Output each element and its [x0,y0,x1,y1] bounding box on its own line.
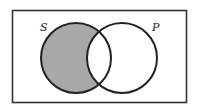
label-p: P [151,21,160,34]
venn-diagram: S P [0,0,199,111]
label-s: S [40,21,48,34]
